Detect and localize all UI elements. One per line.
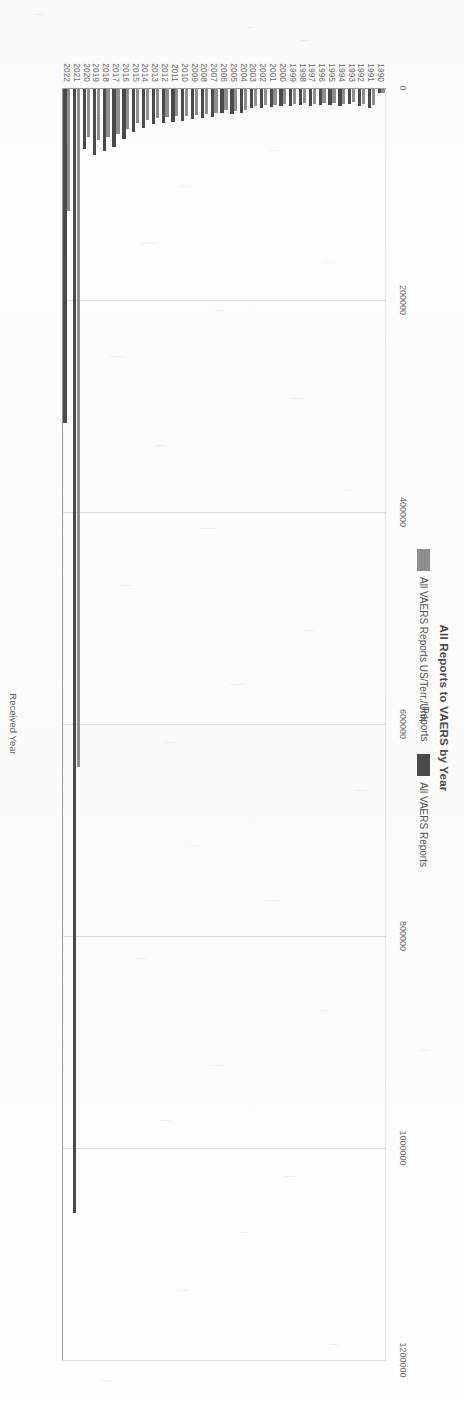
bar-us-terr-unk[interactable] xyxy=(224,89,227,110)
bar-all-reports[interactable] xyxy=(122,89,125,139)
bar-us-terr-unk[interactable] xyxy=(67,89,70,211)
bar-us-terr-unk[interactable] xyxy=(313,89,316,104)
bar-us-terr-unk[interactable] xyxy=(116,89,119,134)
bar-group[interactable] xyxy=(347,89,357,104)
bar-group[interactable] xyxy=(62,89,72,423)
bar-group[interactable] xyxy=(101,89,111,151)
bar-all-reports[interactable] xyxy=(220,89,223,113)
bar-us-terr-unk[interactable] xyxy=(332,89,335,103)
bar-us-terr-unk[interactable] xyxy=(234,89,237,111)
bar-group[interactable] xyxy=(337,89,347,106)
bar-all-reports[interactable] xyxy=(270,89,273,107)
bar-group[interactable] xyxy=(170,89,180,122)
bar-all-reports[interactable] xyxy=(319,89,322,105)
bar-us-terr-unk[interactable] xyxy=(362,89,365,104)
bar-group[interactable] xyxy=(327,89,337,105)
bar-all-reports[interactable] xyxy=(348,89,351,104)
bar-group[interactable] xyxy=(121,89,131,139)
bar-group[interactable] xyxy=(219,89,229,113)
bar-us-terr-unk[interactable] xyxy=(283,89,286,104)
bar-group[interactable] xyxy=(160,89,170,123)
bar-us-terr-unk[interactable] xyxy=(264,89,267,105)
bar-us-terr-unk[interactable] xyxy=(273,89,276,105)
bar-us-terr-unk[interactable] xyxy=(87,89,90,137)
bar-all-reports[interactable] xyxy=(230,89,233,114)
bar-group[interactable] xyxy=(366,89,376,108)
bar-group[interactable] xyxy=(91,89,101,155)
bar-all-reports[interactable] xyxy=(142,89,145,128)
bar-us-terr-unk[interactable] xyxy=(303,89,306,103)
bar-group[interactable] xyxy=(298,89,308,105)
bar-all-reports[interactable] xyxy=(289,89,292,106)
bar-all-reports[interactable] xyxy=(112,89,115,147)
bar-all-reports[interactable] xyxy=(358,89,361,106)
bar-group[interactable] xyxy=(199,89,209,118)
bar-group[interactable] xyxy=(258,89,268,108)
bar-group[interactable] xyxy=(141,89,151,128)
bar-all-reports[interactable] xyxy=(250,89,253,108)
bar-group[interactable] xyxy=(180,89,190,121)
bar-all-reports[interactable] xyxy=(162,89,165,123)
bar-us-terr-unk[interactable] xyxy=(175,89,178,116)
bar-all-reports[interactable] xyxy=(260,89,263,108)
bar-all-reports[interactable] xyxy=(73,89,76,1213)
bar-all-reports[interactable] xyxy=(378,89,381,93)
bar-group[interactable] xyxy=(249,89,259,108)
bar-group[interactable] xyxy=(307,89,317,106)
bar-us-terr-unk[interactable] xyxy=(322,89,325,103)
bar-us-terr-unk[interactable] xyxy=(156,89,159,118)
category-tick-label: 2000 xyxy=(278,54,288,82)
bar-all-reports[interactable] xyxy=(191,89,194,119)
bar-all-reports[interactable] xyxy=(299,89,302,105)
bar-us-terr-unk[interactable] xyxy=(136,89,139,123)
bar-us-terr-unk[interactable] xyxy=(126,89,129,129)
bar-all-reports[interactable] xyxy=(279,89,282,106)
bar-group[interactable] xyxy=(190,89,200,119)
bar-us-terr-unk[interactable] xyxy=(352,89,355,102)
bar-group[interactable] xyxy=(72,89,82,1213)
bar-us-terr-unk[interactable] xyxy=(205,89,208,114)
bar-group[interactable] xyxy=(268,89,278,107)
bar-all-reports[interactable] xyxy=(309,89,312,106)
bar-group[interactable] xyxy=(229,89,239,114)
bar-all-reports[interactable] xyxy=(152,89,155,124)
bar-group[interactable] xyxy=(209,89,219,117)
bar-all-reports[interactable] xyxy=(201,89,204,118)
bar-all-reports[interactable] xyxy=(368,89,371,108)
bar-all-reports[interactable] xyxy=(181,89,184,121)
bar-group[interactable] xyxy=(288,89,298,106)
bar-all-reports[interactable] xyxy=(63,89,66,423)
bar-us-terr-unk[interactable] xyxy=(195,89,198,115)
bar-all-reports[interactable] xyxy=(240,89,243,113)
bar-us-terr-unk[interactable] xyxy=(254,89,257,106)
bar-us-terr-unk[interactable] xyxy=(372,89,375,105)
bar-all-reports[interactable] xyxy=(93,89,96,155)
bar-us-terr-unk[interactable] xyxy=(342,89,345,104)
bar-all-reports[interactable] xyxy=(338,89,341,106)
bar-all-reports[interactable] xyxy=(103,89,106,151)
bar-group[interactable] xyxy=(82,89,92,149)
bar-us-terr-unk[interactable] xyxy=(244,89,247,110)
bar-us-terr-unk[interactable] xyxy=(185,89,188,116)
bar-us-terr-unk[interactable] xyxy=(165,89,168,117)
bar-us-terr-unk[interactable] xyxy=(381,89,384,93)
bar-us-terr-unk[interactable] xyxy=(293,89,296,104)
bar-all-reports[interactable] xyxy=(211,89,214,117)
bar-us-terr-unk[interactable] xyxy=(146,89,149,120)
bar-us-terr-unk[interactable] xyxy=(77,89,80,767)
bar-all-reports[interactable] xyxy=(171,89,174,122)
bar-group[interactable] xyxy=(317,89,327,105)
bar-group[interactable] xyxy=(239,89,249,113)
bar-group[interactable] xyxy=(150,89,160,124)
bar-group[interactable] xyxy=(357,89,367,106)
bar-all-reports[interactable] xyxy=(132,89,135,132)
bar-us-terr-unk[interactable] xyxy=(214,89,217,113)
bar-group[interactable] xyxy=(376,89,386,93)
bar-all-reports[interactable] xyxy=(328,89,331,105)
bar-group[interactable] xyxy=(111,89,121,147)
bar-group[interactable] xyxy=(131,89,141,132)
bar-us-terr-unk[interactable] xyxy=(106,89,109,137)
bar-all-reports[interactable] xyxy=(83,89,86,149)
bar-group[interactable] xyxy=(278,89,288,106)
bar-us-terr-unk[interactable] xyxy=(97,89,100,140)
